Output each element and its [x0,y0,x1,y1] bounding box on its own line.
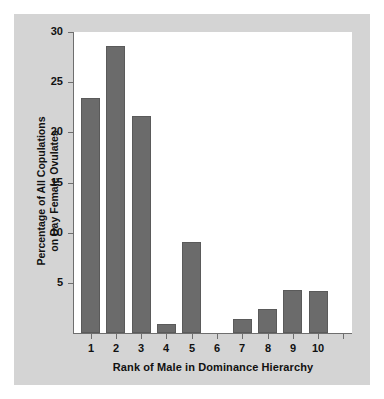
y-tick [68,132,73,133]
bar [132,116,151,333]
y-tick [68,283,73,284]
x-tick [217,334,218,339]
figure: 51015202530 12345678910 Percentage of Al… [0,0,384,399]
bar [157,324,176,333]
x-tick [141,334,142,339]
x-tick [166,334,167,339]
y-axis-line [73,32,74,334]
x-tick [116,334,117,339]
bar [283,290,302,333]
bar [106,46,125,333]
x-tick [192,334,193,339]
y-tick [68,82,73,83]
x-axis-title: Rank of Male in Dominance Hierarchy [74,361,352,373]
bar [233,319,252,333]
x-tick [91,334,92,339]
y-tick [68,183,73,184]
x-tick-label: 10 [303,342,333,354]
x-tick [293,334,294,339]
bar [258,309,277,333]
bar [81,98,100,333]
bar [309,291,328,333]
y-tick-label: 30 [23,26,63,37]
y-tick [68,32,73,33]
y-tick [68,233,73,234]
x-axis-line [73,333,352,334]
x-tick-end [343,334,344,339]
y-axis-title: Percentage of All Copulations on Day Fem… [35,61,61,321]
bar [182,242,201,333]
x-tick [242,334,243,339]
x-tick [268,334,269,339]
x-tick [318,334,319,339]
